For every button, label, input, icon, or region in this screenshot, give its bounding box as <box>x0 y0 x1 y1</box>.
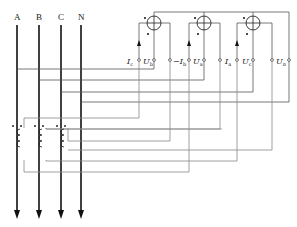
bus-lines <box>14 25 84 219</box>
label-neg-ib: −Ib <box>173 57 186 67</box>
bus-label-n: N <box>78 12 85 22</box>
label-un: Un <box>276 57 287 67</box>
bus-label-c: C <box>58 12 64 22</box>
label-ua: Ua <box>193 57 203 67</box>
meters <box>144 16 260 35</box>
label-ia: Ia <box>224 57 231 67</box>
arrow-down-icon <box>36 210 42 219</box>
meter-1 <box>144 16 161 35</box>
meter-3 <box>243 16 260 35</box>
arrow-down-icon <box>78 210 84 219</box>
label-uc: Uc <box>242 57 252 67</box>
circuit-diagram: A B C N <box>0 0 297 227</box>
label-ub: Ub <box>143 57 153 67</box>
voltage-wires <box>17 61 289 102</box>
terminals <box>138 59 291 62</box>
label-ic: Ic <box>126 57 133 67</box>
bus-label-a: A <box>14 12 21 22</box>
terminal-labels: Ic Ub −Ib Ua Ia Uc Un <box>126 57 287 67</box>
bus-label-b: B <box>36 12 42 22</box>
arrow-down-icon <box>14 210 20 219</box>
bus-labels: A B C N <box>14 12 85 22</box>
meter-2 <box>194 16 211 35</box>
arrow-down-icon <box>58 210 64 219</box>
